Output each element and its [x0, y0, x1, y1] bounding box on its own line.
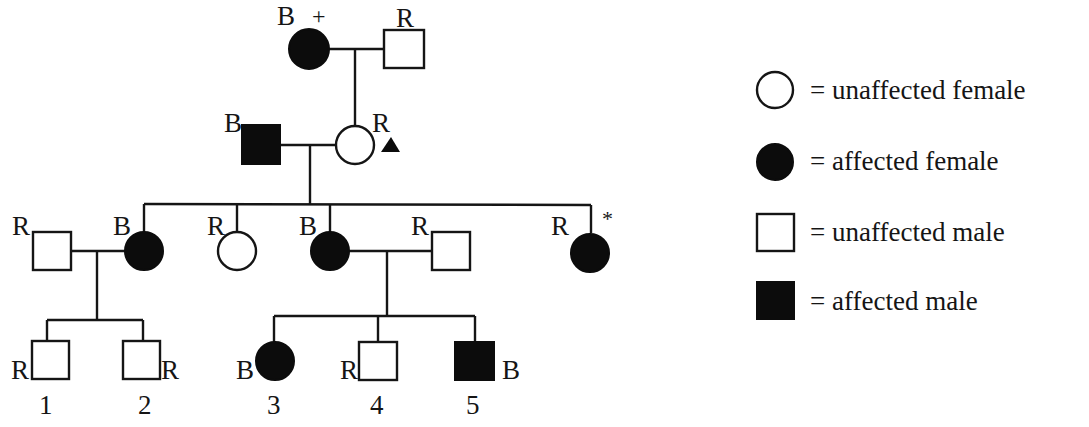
legend-open-square-icon	[757, 214, 794, 251]
allele-label-IV-1: R	[11, 355, 29, 385]
legend-label-affected-female: = affected female	[810, 146, 999, 176]
allele-label-III-1: B	[113, 211, 131, 241]
legend-label-unaffected-male: = unaffected male	[810, 217, 1005, 247]
sibship-line-gen3	[144, 204, 591, 205]
generation-4: R 1 R 2 B 3 R 4 B 5	[11, 341, 520, 420]
unaffected-male-IV-1	[32, 341, 69, 379]
allele-label-II-1: B	[224, 108, 242, 138]
unaffected-male-IV-4	[359, 342, 397, 380]
allele-label-III-spouse-2: R	[411, 211, 429, 241]
asterisk-mark: *	[602, 206, 613, 231]
legend-label-affected-male: = affected male	[810, 286, 978, 316]
affected-male-IV-5	[455, 342, 494, 380]
triangle-icon	[381, 137, 400, 152]
legend-filled-square-icon	[757, 282, 794, 319]
allele-label-III-2: R	[207, 211, 225, 241]
allele-label-III-3: B	[299, 211, 317, 241]
affected-female-I-1	[289, 29, 329, 69]
affected-female-III-4	[571, 234, 609, 272]
allele-label-III-4: R	[551, 211, 569, 241]
generation-1: B + R	[277, 1, 424, 69]
individual-number-3: 3	[267, 390, 281, 420]
generation-2: B R	[224, 108, 400, 164]
allele-label-IV-4: R	[340, 355, 358, 385]
pedigree-chart: B + R B R R B R B R R * R 1 R 2 B	[0, 0, 1089, 427]
generation-3: R B R B R R *	[12, 206, 613, 272]
individual-number-2: 2	[138, 390, 152, 420]
unaffected-male-III-spouse-2	[432, 232, 470, 270]
allele-label-III-spouse-1: R	[12, 211, 30, 241]
legend-filled-circle-icon	[757, 144, 793, 180]
legend-label-unaffected-female: = unaffected female	[810, 75, 1026, 105]
legend-open-circle-icon	[757, 72, 793, 108]
unaffected-female-II-2	[336, 126, 374, 164]
allele-label-IV-3: B	[236, 355, 254, 385]
unaffected-male-IV-2	[123, 341, 160, 379]
legend: = unaffected female = affected female = …	[757, 72, 1026, 319]
individual-number-4: 4	[370, 390, 384, 420]
unaffected-male-I-2	[384, 30, 424, 68]
pedigree-lines	[47, 49, 591, 342]
allele-label-II-2: R	[372, 108, 390, 138]
individual-number-5: 5	[466, 390, 480, 420]
allele-label-IV-5: B	[502, 355, 520, 385]
affected-male-II-1	[242, 125, 280, 164]
individual-number-1: 1	[39, 390, 53, 420]
unaffected-male-III-spouse-1	[33, 232, 71, 270]
plus-mark: +	[312, 3, 326, 29]
allele-label-IV-2: R	[161, 355, 179, 385]
allele-label-I-1: B	[277, 1, 295, 31]
allele-label-I-2: R	[396, 3, 414, 33]
affected-female-IV-3	[256, 342, 294, 380]
